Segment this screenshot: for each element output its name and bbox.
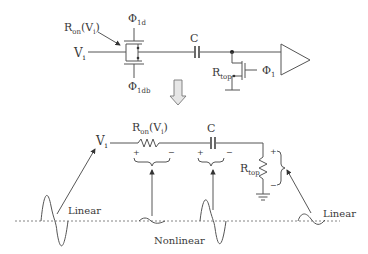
bottom-circuit: Vi Ron(Vi) C Rtop + − + − + − — [95, 121, 285, 200]
bottom-c-label: C — [207, 122, 215, 135]
output-waveform-linear — [298, 214, 325, 224]
svg-text:−: − — [270, 181, 277, 190]
top-circuit: Vi Ron(Vi) Φ1d Φ1db C — [64, 12, 310, 95]
phi-1db-label: Φ1db — [128, 80, 151, 95]
svg-text:+: + — [133, 148, 140, 157]
ron-resistor — [138, 139, 159, 147]
svg-text:+: + — [270, 147, 277, 156]
top-vi-label: Vi — [73, 46, 86, 62]
output-pointer-arrow — [287, 170, 311, 213]
rtop-transistor — [225, 52, 257, 90]
output-linear-label: Linear — [323, 208, 356, 219]
bottom-rtop-label: Rtop — [240, 162, 260, 177]
nonlinear-label: Nonlinear — [154, 235, 205, 246]
svg-text:+: + — [197, 148, 204, 157]
transmission-gate — [124, 28, 144, 78]
top-c-label: C — [190, 32, 198, 45]
phi-1d-label: Φ1d — [128, 12, 146, 27]
bottom-ron-label: Ron(Vi) — [132, 121, 168, 136]
diagram-svg: Vi Ron(Vi) Φ1d Φ1db C — [0, 0, 368, 254]
rtop-resistor — [259, 157, 267, 194]
svg-text:−: − — [168, 148, 175, 157]
phi-1-label: Φ1 — [262, 64, 276, 79]
svg-text:−: − — [226, 148, 233, 157]
ron-voltage-brace — [134, 158, 170, 166]
top-rtop-label: Rtop — [212, 66, 232, 81]
input-linear-label: Linear — [68, 205, 101, 216]
ron-pointer-arrow — [98, 32, 120, 45]
transform-down-arrow — [170, 80, 186, 105]
bottom-vi-label: Vi — [95, 134, 108, 150]
top-ron-label: Ron(Vi) — [64, 21, 100, 36]
circuit-diagram: Vi Ron(Vi) Φ1d Φ1db C — [0, 0, 368, 254]
cap-voltage-brace — [198, 158, 224, 166]
amplifier-icon — [281, 44, 310, 75]
rtop-voltage-brace — [277, 151, 285, 185]
